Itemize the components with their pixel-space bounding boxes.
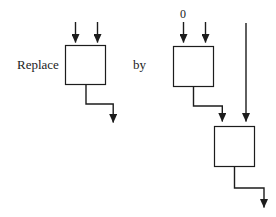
replacement-rule-diagram: Replace by 0 — [0, 0, 276, 217]
replacement-rule-figure: Replace by 0 — [0, 0, 276, 217]
right-bottom-box-output-arrow — [235, 167, 265, 208]
right-top-box — [174, 47, 214, 87]
by-label: by — [133, 57, 147, 72]
replace-label: Replace — [17, 57, 59, 72]
diagram-strokes — [66, 22, 265, 208]
left-box — [66, 46, 106, 85]
left-box-output-arrow — [86, 85, 113, 123]
right-top-box-output-arrow — [194, 87, 223, 122]
right-bottom-box — [215, 127, 255, 167]
zero-constant-label: 0 — [180, 7, 186, 21]
